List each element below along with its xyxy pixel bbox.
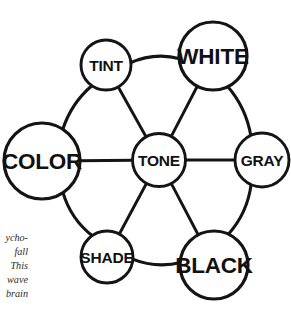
caption-line: fall [0, 245, 28, 259]
node-label-tint: TINT [89, 57, 123, 74]
spoke-edge-tone-to-shade [119, 182, 147, 235]
caption-line: brain [0, 287, 28, 301]
caption-line: wave [0, 273, 28, 287]
node-label-shade: SHADE [80, 249, 133, 266]
spoke-edge-tone-to-black [171, 183, 199, 236]
node-label-tone: TONE [138, 152, 180, 169]
node-tone[interactable]: TONE [133, 134, 186, 187]
node-gray[interactable]: GRAY [235, 133, 289, 187]
caption-line: ycho- [0, 231, 28, 245]
figure-root: TINTWHITECOLORTONEGRAYSHADEBLACK ycho-fa… [0, 0, 291, 309]
caption-text-block: ycho-fallThiswavebrain [0, 231, 28, 301]
node-black[interactable]: BLACK [175, 231, 254, 299]
ring-edge-shade-to-color [63, 192, 93, 237]
node-tint[interactable]: TINT [81, 40, 131, 90]
ring-edge-white-to-gray [227, 86, 251, 137]
node-label-gray: GRAY [241, 152, 284, 169]
node-white[interactable]: WHITE [177, 22, 249, 90]
ring-edge-gray-to-black [228, 184, 251, 235]
spoke-edge-tone-to-white [171, 85, 198, 137]
spoke-edge-tone-to-tint [118, 86, 147, 138]
ring-edge-color-to-tint [63, 85, 93, 130]
caption-line: This [0, 259, 28, 273]
color-wheel-diagram: TINTWHITECOLORTONEGRAYSHADEBLACK [0, 0, 291, 309]
node-color[interactable]: COLOR [2, 123, 82, 199]
node-label-black: BLACK [175, 253, 254, 278]
node-label-color: COLOR [2, 149, 82, 174]
ring-edge-black-to-shade [132, 259, 181, 265]
node-shade[interactable]: SHADE [80, 231, 133, 283]
node-layer: TINTWHITECOLORTONEGRAYSHADEBLACK [2, 22, 289, 299]
ring-edge-tint-to-white [130, 56, 180, 63]
node-label-white: WHITE [177, 44, 249, 69]
